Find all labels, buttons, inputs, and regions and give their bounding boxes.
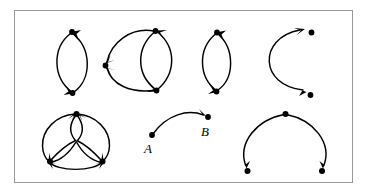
arrowhead-bottom-right (320, 159, 328, 169)
arc-topright-to-left (107, 30, 154, 62)
node-top-right (153, 28, 159, 34)
arc-apex-to-bottom-left (244, 115, 284, 166)
arc-apex-to-bottom-right (287, 115, 326, 166)
arc-petal-top-left-outer (71, 115, 76, 140)
arc-left-upward (202, 35, 217, 92)
arc-right-downward (72, 33, 87, 92)
arrowhead-upper-right (294, 28, 305, 36)
diagram-bigon-two-node-top-left (57, 29, 87, 96)
arc-petal-bottomleft-lower (51, 142, 76, 163)
arrowhead-left-lower (106, 68, 116, 76)
node-bottom (70, 90, 76, 96)
node-top (74, 111, 80, 117)
arc-a-to-b (153, 113, 204, 135)
node-bottom (214, 89, 220, 95)
arrowhead-topright-inner (157, 30, 167, 39)
arc-petal-top-right-outer (77, 115, 82, 140)
arc-petal-bottomright-lower (77, 142, 102, 163)
node-top (69, 29, 75, 35)
arc-inner-right-lens (157, 32, 172, 90)
node-apex (283, 111, 289, 117)
arc-c-shape (269, 30, 303, 90)
diagram-bigon-two-node-top-right (202, 30, 230, 95)
node-bottom-right (319, 168, 325, 174)
arc-right-downward (217, 33, 231, 90)
arc-outer-bottom (49, 162, 103, 170)
node-bottom-left (245, 168, 251, 174)
node-left (103, 63, 109, 69)
node-b (205, 114, 211, 120)
arc-outer-left (42, 114, 75, 162)
arc-diagram-canvas: A B (0, 0, 367, 194)
diagram-single-arc-a-to-b: A B (143, 109, 211, 156)
diagram-c-shape-open-arc-top-right (269, 28, 314, 98)
diagram-three-node-double-lens-top (103, 28, 172, 93)
label-point-b: B (201, 124, 209, 139)
node-bottom-left (47, 159, 53, 165)
arc-bottomright-to-left (107, 68, 156, 91)
arc-left-upward (57, 34, 73, 94)
node-a (149, 132, 155, 138)
figure-root: A B (0, 0, 367, 194)
node-upper-right (309, 30, 315, 36)
diagram-arch-three-node-bottom-right (242, 111, 328, 174)
arrowhead-bottom-left (242, 159, 250, 169)
node-lower-right (308, 92, 314, 98)
diagram-trefoil-three-node-bottom-left (42, 111, 109, 169)
arc-inner-left-lens (141, 32, 155, 89)
node-top (214, 30, 220, 36)
arc-outer-right (77, 114, 110, 162)
node-bottom-right (154, 88, 160, 94)
label-point-a: A (143, 141, 152, 156)
node-bottom-right (100, 159, 106, 165)
